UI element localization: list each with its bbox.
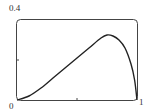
plot-frame (17, 20, 138, 101)
plot-area (0, 0, 144, 110)
data-curve (17, 35, 137, 100)
